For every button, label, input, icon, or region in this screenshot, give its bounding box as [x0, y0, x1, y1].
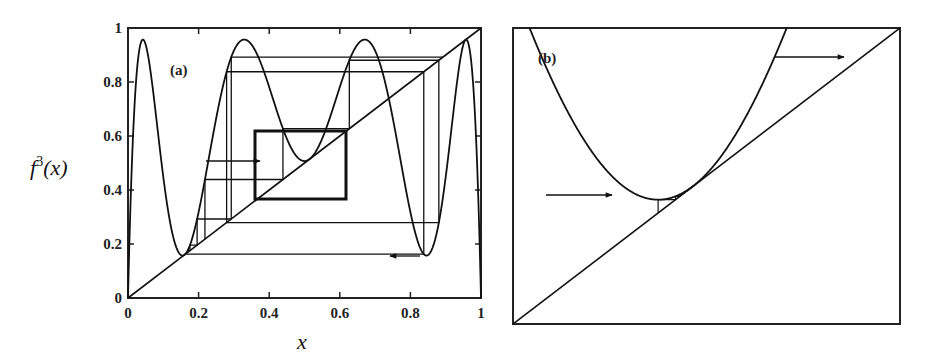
y-tick-label: 1 — [115, 20, 123, 36]
y-tick-label: 0.2 — [103, 236, 122, 252]
y-tick-label: 0.4 — [103, 182, 122, 198]
x-tick-label: 1 — [477, 305, 485, 321]
panel-a-f3-curve — [128, 40, 481, 298]
panel-b-label: (b) — [538, 50, 556, 67]
panel-b: (b) — [513, 0, 900, 324]
y-tick-label: 0.6 — [103, 128, 122, 144]
x-tick-label: 0 — [124, 305, 132, 321]
x-axis-title: x — [296, 329, 307, 354]
panel-b-diagonal — [513, 28, 900, 324]
y-tick-label: 0 — [115, 290, 123, 306]
x-tick-label: 0.8 — [401, 305, 420, 321]
y-axis-title: f3(x) — [30, 154, 68, 180]
x-tick-label: 0.6 — [330, 305, 349, 321]
figure: 000.20.20.40.40.60.60.80.811 (a) f3(x) x… — [0, 0, 928, 358]
panel-b-f3-curve — [513, 0, 900, 200]
x-tick-label: 0.2 — [189, 305, 208, 321]
panel-a: 000.20.20.40.40.60.60.80.811 (a) f3(x) x — [30, 20, 485, 354]
panel-a-label: (a) — [170, 62, 188, 79]
x-tick-label: 0.4 — [260, 305, 279, 321]
y-tick-label: 0.8 — [103, 74, 122, 90]
